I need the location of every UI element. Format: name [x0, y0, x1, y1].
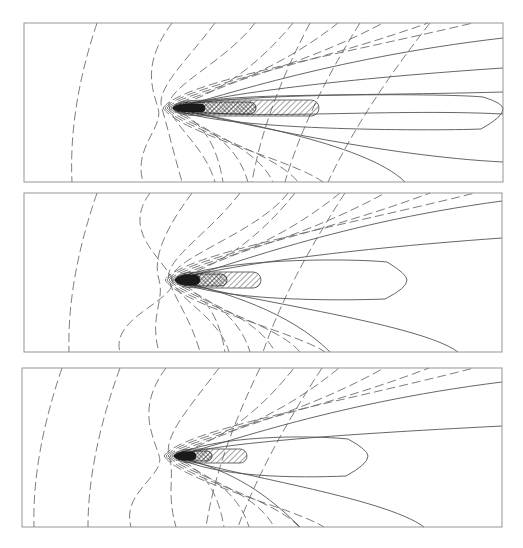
- dashed-contour-line: [141, 23, 172, 182]
- dashed-contour-line: [206, 368, 260, 527]
- solid-contour-line: [175, 280, 330, 352]
- contour-figure: [0, 0, 523, 548]
- contour-panel-1: [24, 23, 503, 182]
- solid-contour-line: [175, 280, 458, 352]
- dashed-contour-line: [168, 368, 384, 456]
- dashed-contour-line: [34, 368, 62, 527]
- dashed-contour-line: [168, 368, 219, 527]
- dashed-contour-line: [167, 193, 430, 280]
- solid-contour-line: [173, 108, 405, 182]
- dashed-contour-line: [238, 368, 322, 527]
- contour-panel-2: [24, 193, 502, 352]
- dashed-contour-line: [165, 193, 475, 280]
- dashed-contour-line: [166, 368, 429, 456]
- dashed-contour-line: [88, 368, 120, 527]
- dashed-contour-line: [263, 193, 345, 352]
- dashed-contour-line: [163, 108, 323, 182]
- solid-contour-line: [175, 201, 502, 280]
- dashed-contour-line: [172, 368, 294, 456]
- dashed-contour-line: [165, 280, 325, 352]
- dashed-contour-line: [119, 193, 172, 352]
- solid-contour-line: [174, 456, 424, 527]
- dashed-contour-line: [69, 193, 97, 352]
- contour-panel-3: [22, 368, 502, 527]
- dark-core-region: [173, 104, 205, 112]
- dashed-contour-line: [164, 368, 474, 456]
- dashed-contour-line: [130, 368, 166, 527]
- solid-contour-line: [174, 382, 502, 456]
- dashed-contour-line: [328, 23, 430, 182]
- panel-frame: [24, 193, 502, 352]
- dashed-contour-line: [72, 23, 97, 182]
- dashed-contour-line: [169, 280, 275, 352]
